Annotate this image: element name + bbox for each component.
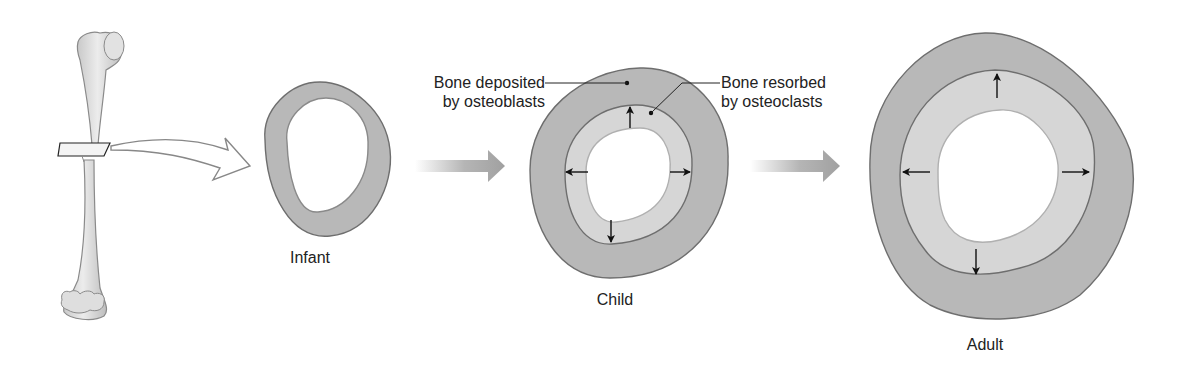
annotation-resorbed-line1: Bone resorbed bbox=[721, 73, 871, 92]
long-bone-illustration bbox=[58, 32, 124, 319]
annotation-deposited-line2: by osteoblasts bbox=[395, 92, 545, 111]
callout-arrow bbox=[111, 138, 250, 180]
annotation-resorbed-line2: by osteoclasts bbox=[721, 92, 871, 111]
annotation-bone-deposited: Bone deposited by osteoblasts bbox=[395, 73, 545, 111]
stage-label-infant: Infant bbox=[270, 248, 350, 267]
adult-cross-section bbox=[870, 33, 1133, 319]
infant-cross-section bbox=[265, 82, 391, 236]
annotation-deposited-line1: Bone deposited bbox=[395, 73, 545, 92]
stage-label-adult: Adult bbox=[945, 335, 1025, 354]
stage-label-child: Child bbox=[575, 290, 655, 309]
child-cross-section bbox=[530, 68, 728, 278]
bone-growth-diagram: Infant Child Adult Bone deposited by ost… bbox=[0, 0, 1185, 366]
growth-flow-arrow-2 bbox=[750, 150, 840, 182]
annotation-bone-resorbed: Bone resorbed by osteoclasts bbox=[721, 73, 871, 111]
growth-flow-arrow-1 bbox=[415, 150, 505, 182]
diagram-canvas bbox=[0, 0, 1185, 366]
